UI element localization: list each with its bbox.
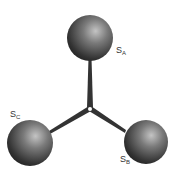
bond-c: [49, 106, 91, 134]
bond-b: [89, 106, 126, 133]
star-diagram: [0, 0, 181, 178]
label-sa: SA: [116, 46, 126, 56]
bonds: [49, 58, 126, 134]
sphere-c: [7, 120, 53, 166]
label-sb: SB: [120, 155, 130, 165]
bond-a: [87, 58, 93, 108]
sphere-a: [67, 15, 113, 61]
center-junction: [88, 107, 92, 111]
label-sc: SC: [10, 110, 20, 120]
sphere-b: [124, 120, 168, 164]
